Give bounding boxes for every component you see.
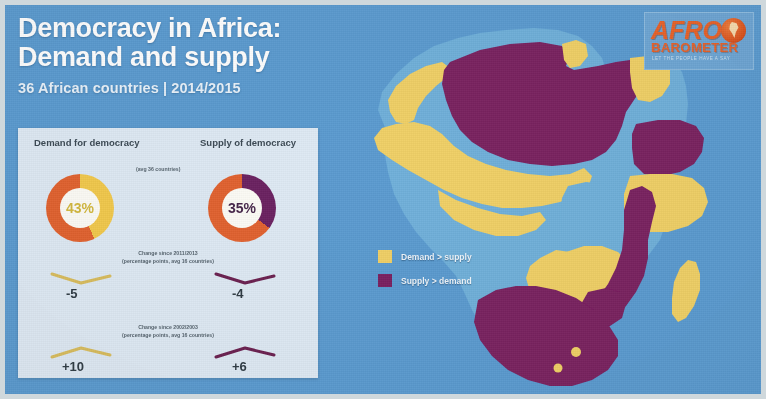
supply-heading: Supply of democracy (200, 137, 296, 148)
demand-donut-chart: 43% (46, 174, 114, 242)
logo-barometer-text: BAROMETER (651, 40, 738, 55)
afrobarometer-logo[interactable]: AFRO BAROMETER LET THE PEOPLE HAVE A SAY (644, 12, 754, 70)
change-note-2011-line1: Change since 2011/2013 (18, 250, 318, 258)
supply-trend-sparkline-2011 (214, 271, 276, 287)
supply-delta-2002: +6 (232, 359, 247, 374)
demand-delta-2002: +10 (62, 359, 84, 374)
map-country-lesotho (571, 347, 581, 357)
legend-item-demand-greater: Demand > supply (378, 250, 472, 263)
demand-heading: Demand for democracy (34, 137, 140, 148)
supply-trend-sparkline-2002 (214, 344, 276, 360)
page-title-line2: Demand and supply (18, 43, 378, 72)
map-country-horn-purple (632, 120, 704, 176)
demand-trend-sparkline-2011 (50, 271, 112, 287)
legend-label-demand: Demand > supply (401, 252, 472, 262)
legend-swatch-demand (378, 250, 392, 263)
page-title-line1: Democracy in Africa: (18, 13, 281, 43)
page-subtitle: 36 African countries | 2014/2015 (18, 80, 378, 96)
page-title: Democracy in Africa: Demand and supply (18, 14, 378, 72)
legend-label-supply: Supply > demand (401, 276, 472, 286)
supply-donut-chart: 35% (208, 174, 276, 242)
change-note-2011: Change since 2011/2013 (percentage point… (18, 250, 318, 265)
change-note-2002: Change since 2002/2003 (percentage point… (18, 324, 318, 339)
average-note: (avg 36 countries) (136, 166, 180, 172)
stats-panel: Demand for democracy Supply of democracy… (18, 128, 318, 378)
infographic-canvas: Democracy in Africa: Demand and supply 3… (0, 0, 766, 399)
map-legend: Demand > supply Supply > demand (378, 250, 472, 298)
supply-delta-2011: -4 (232, 286, 244, 301)
demand-delta-2011: -5 (66, 286, 78, 301)
header: Democracy in Africa: Demand and supply 3… (18, 14, 378, 96)
map-country-madagascar (672, 260, 700, 322)
legend-swatch-supply (378, 274, 392, 287)
change-note-2011-line2: (percentage points, avg 16 countries) (18, 258, 318, 266)
map-country-swaziland (554, 364, 563, 373)
change-note-2002-line2: (percentage points, avg 16 countries) (18, 332, 318, 340)
panel-headings: Demand for democracy Supply of democracy (18, 128, 318, 148)
demand-trend-sparkline-2002 (50, 344, 112, 360)
change-note-2002-line1: Change since 2002/2003 (18, 324, 318, 332)
demand-value-label: 43% (60, 188, 100, 228)
legend-item-supply-greater: Supply > demand (378, 274, 472, 287)
supply-value-label: 35% (222, 188, 262, 228)
logo-tagline: LET THE PEOPLE HAVE A SAY (652, 56, 730, 61)
